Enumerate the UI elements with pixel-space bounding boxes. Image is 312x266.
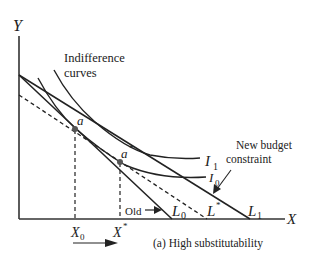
svg-text:*: * bbox=[123, 221, 128, 231]
svg-text:1: 1 bbox=[257, 210, 262, 221]
svg-text:L: L bbox=[171, 203, 180, 219]
svg-text:0: 0 bbox=[215, 178, 220, 188]
x-axis-label: X bbox=[286, 211, 297, 227]
svg-text:I: I bbox=[204, 153, 211, 169]
svg-text:*: * bbox=[129, 143, 134, 153]
point-a-label: a bbox=[77, 113, 84, 128]
svg-text:1: 1 bbox=[213, 161, 218, 172]
label-l-star: L * bbox=[206, 200, 221, 219]
indifference-curves-label-1: Indifference bbox=[64, 51, 125, 65]
svg-text:X: X bbox=[112, 225, 122, 240]
diagram-canvas: Y X Indifference curves New budget const… bbox=[0, 0, 312, 266]
old-label: Old bbox=[125, 205, 142, 217]
new-budget-label-2: constraint bbox=[226, 153, 272, 165]
budget-line-l0 bbox=[19, 75, 172, 219]
old-arrow-head bbox=[154, 206, 162, 214]
svg-text:*: * bbox=[216, 200, 221, 210]
label-l0: L 0 bbox=[171, 203, 186, 221]
svg-text:X: X bbox=[70, 225, 80, 240]
svg-text:0: 0 bbox=[181, 210, 186, 221]
budget-line-l1 bbox=[19, 75, 250, 219]
svg-text:a: a bbox=[121, 146, 128, 161]
svg-text:L: L bbox=[206, 203, 215, 219]
svg-text:0: 0 bbox=[80, 232, 85, 242]
shift-arrow-head bbox=[105, 239, 118, 247]
svg-text:L: L bbox=[247, 203, 256, 219]
tick-label-x-star: X * bbox=[112, 221, 128, 240]
new-budget-label-1: New budget bbox=[236, 139, 293, 152]
tick-label-x0: X 0 bbox=[70, 225, 85, 242]
figure-caption: (a) High substitutability bbox=[153, 237, 263, 250]
label-l1: L 1 bbox=[247, 203, 262, 221]
y-axis-label: Y bbox=[13, 17, 24, 34]
svg-text:I: I bbox=[208, 170, 214, 185]
indifference-curves-label-2: curves bbox=[64, 66, 97, 80]
